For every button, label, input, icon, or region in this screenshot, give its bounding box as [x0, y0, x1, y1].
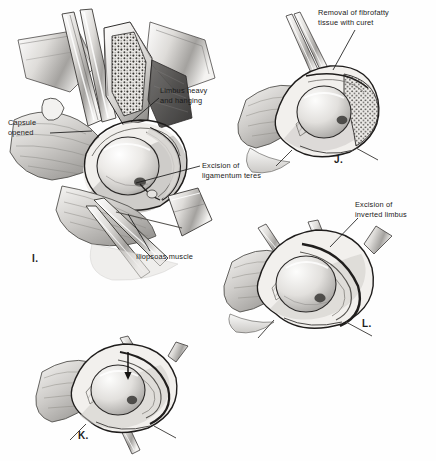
annotation-excision-of-inverted-limbus: Excision of inverted limbus	[355, 200, 407, 219]
annotation-limbus-heavy-and-hanging: Limbus heavy and hanging	[160, 86, 207, 105]
panel-j-letter: J.	[334, 154, 343, 165]
annotation-excision-of-ligamentum-teres: Excision of ligamentum teres	[202, 161, 261, 180]
surgical-figure: Capsule openedLimbus heavy and hangingEx…	[0, 0, 436, 461]
annotation-capsule-opened: Capsule opened	[8, 118, 36, 137]
panel-l-letter: L.	[362, 318, 372, 329]
panel-k-letter: K.	[78, 430, 89, 441]
illustration-canvas	[0, 0, 436, 461]
annotation-removal-of-fibrofatty-tissue-with-curet: Removal of fibrofatty tissue with curet	[318, 8, 389, 27]
panel-i-letter: I.	[32, 253, 38, 264]
annotation-iliopsoas-muscle: Iliopsoas muscle	[136, 252, 193, 262]
